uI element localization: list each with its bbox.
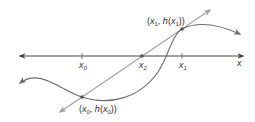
label-point-x1: (x1, h(x1)) [147, 16, 185, 27]
function-curve [20, 25, 240, 101]
label-x1: x1 [178, 60, 187, 71]
point-x2 [140, 54, 144, 58]
label-x0: x0 [78, 60, 88, 71]
secant-method-diagram: x0 x2 x1 x (x1, h(x1)) (x0, h(x0)) [0, 0, 255, 122]
point-x1-hx1 [180, 27, 184, 31]
axis-label-x: x [236, 58, 242, 68]
label-x2: x2 [138, 60, 148, 71]
label-point-x0: (x0, h(x0)) [79, 104, 117, 115]
point-x0-hx0 [80, 95, 84, 99]
